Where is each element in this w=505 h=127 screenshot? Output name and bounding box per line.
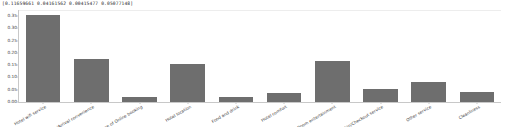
x-axis-tick-label: Cleanliness [458, 105, 481, 121]
bar [363, 89, 398, 102]
y-axis-tick-mark [17, 28, 19, 29]
plot-axes: 0.350.300.250.200.150.100.050.00 [18, 10, 501, 103]
bar [74, 59, 109, 102]
x-axis-tick-label-wrapper: Hotel wifi service [44, 105, 45, 106]
y-axis-tick-mark [17, 102, 19, 103]
x-axis-tick-label-wrapper: Food and drink [237, 105, 238, 106]
bar [460, 92, 495, 102]
x-axis-tick-label: Hotel wifi service [14, 105, 47, 127]
x-axis-tick-label: Hotel location [165, 105, 192, 123]
y-axis-tick-mark [17, 16, 19, 17]
x-axis-tick-label-wrapper: Ease of Online booking [141, 105, 142, 106]
x-axis-tick-label-wrapper: Checkin/Checkout service [382, 105, 383, 106]
bar [411, 82, 446, 102]
bar-chart-figure: 0.350.300.250.200.150.100.050.00 Hotel w… [0, 8, 505, 127]
y-axis-tick-mark [17, 89, 19, 90]
y-axis-tick-mark [17, 40, 19, 41]
stdout-numeric-output: [0.11659661 0.04161562 0.00415477 0.0507… [2, 0, 133, 7]
x-axis-tick-label-wrapper: Departure/Arrival convenience [92, 105, 93, 106]
y-axis-tick-mark [17, 65, 19, 66]
x-axis-tick-label-wrapper: Common Room entertainment [333, 105, 334, 106]
y-axis-tick-mark [17, 77, 19, 78]
x-axis-tick-label: Hotel comfort [261, 105, 288, 123]
bar [26, 15, 61, 102]
x-axis-tick-label-wrapper: Hotel comfort [285, 105, 286, 106]
x-axis-tick-label: Checkin/Checkout service [336, 105, 385, 127]
bar [170, 64, 205, 102]
x-axis-tick-label: Other service [406, 105, 433, 123]
x-axis-tick-label-wrapper: Hotel location [189, 105, 190, 106]
x-axis-tick-label: Ease of Online booking [100, 105, 144, 127]
x-axis-tick-label-wrapper: Other service [430, 105, 431, 106]
y-axis-tick-mark [17, 52, 19, 53]
x-axis-tick-label-wrapper: Cleanliness [478, 105, 479, 106]
plot-area: 0.350.300.250.200.150.100.050.00 [19, 10, 501, 102]
bar [315, 61, 350, 102]
chart-screenshot: [0.11659661 0.04161562 0.00415477 0.0507… [0, 0, 505, 127]
bar [267, 93, 302, 102]
x-axis-tick-label: Food and drink [211, 105, 240, 124]
